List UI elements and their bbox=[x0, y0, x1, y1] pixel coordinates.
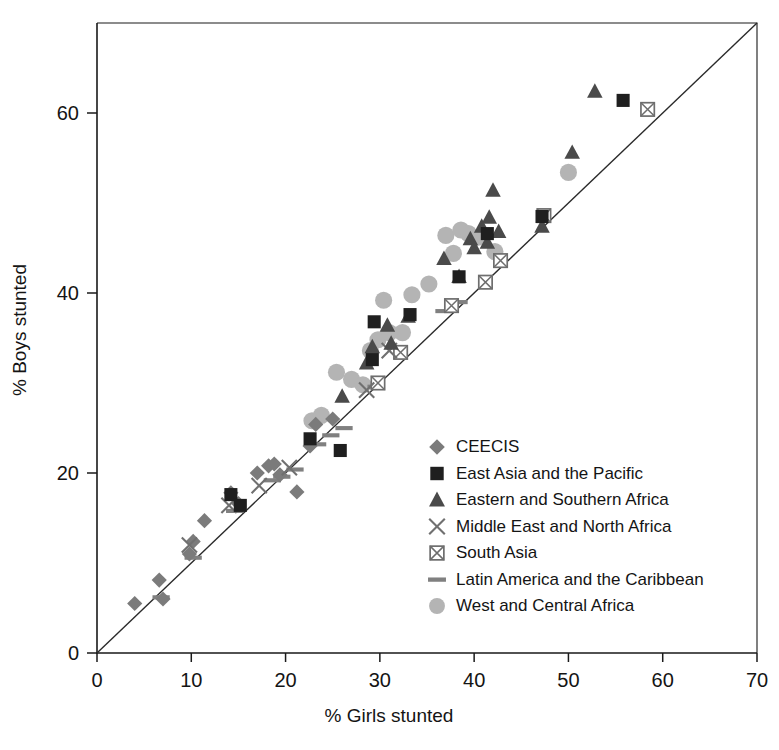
triangle-icon bbox=[429, 492, 445, 507]
data-point bbox=[368, 315, 381, 328]
legend-label: South Asia bbox=[456, 543, 538, 562]
data-point bbox=[252, 478, 267, 493]
legend-item-eastern-and-southern-africa[interactable]: Eastern and Southern Africa bbox=[429, 490, 669, 509]
legend-item-west-and-central-africa[interactable]: West and Central Africa bbox=[429, 596, 635, 615]
data-point bbox=[453, 270, 466, 283]
legend-label: West and Central Africa bbox=[456, 596, 635, 615]
data-point bbox=[375, 292, 392, 309]
data-point bbox=[437, 227, 454, 244]
data-point bbox=[335, 426, 352, 430]
data-point bbox=[197, 513, 212, 528]
data-point bbox=[334, 444, 347, 457]
data-point bbox=[420, 275, 437, 292]
data-point bbox=[445, 299, 458, 312]
plot-area: 0102030405060700204060 CEECISEast Asia a… bbox=[0, 0, 779, 750]
series-west-and-central-africa bbox=[303, 164, 577, 430]
legend-item-ceecis[interactable]: CEECIS bbox=[429, 437, 519, 456]
x-tick-label: 20 bbox=[274, 669, 296, 691]
data-point bbox=[334, 388, 350, 402]
legend-item-south-asia[interactable]: South Asia bbox=[430, 543, 538, 562]
data-point bbox=[481, 209, 497, 223]
data-point bbox=[485, 182, 501, 196]
y-axis-label: % Boys stunted bbox=[9, 264, 30, 396]
data-point bbox=[403, 286, 420, 303]
x-tick-label: 30 bbox=[369, 669, 391, 691]
cross-icon bbox=[429, 519, 445, 535]
data-point bbox=[366, 353, 379, 366]
series-middle-east-and-north-africa bbox=[182, 343, 397, 553]
data-point bbox=[494, 254, 507, 267]
data-point bbox=[479, 276, 492, 289]
data-point bbox=[152, 573, 167, 588]
x-axis-label: % Girls stunted bbox=[325, 705, 454, 726]
data-point bbox=[617, 94, 630, 107]
legend-item-east-asia-and-the-pacific[interactable]: East Asia and the Pacific bbox=[430, 464, 643, 483]
data-point bbox=[481, 227, 494, 240]
data-point bbox=[394, 324, 411, 341]
x-tick-label: 0 bbox=[91, 669, 102, 691]
x-tick-label: 50 bbox=[557, 669, 579, 691]
x-tick-label: 40 bbox=[463, 669, 485, 691]
legend-item-middle-east-and-north-africa[interactable]: Middle East and North Africa bbox=[429, 517, 672, 536]
data-point bbox=[127, 596, 142, 611]
square-icon bbox=[430, 467, 443, 480]
scatter-chart: 0102030405060700204060 CEECISEast Asia a… bbox=[0, 0, 779, 750]
data-point bbox=[587, 83, 603, 97]
data-point bbox=[403, 308, 416, 321]
data-point bbox=[234, 499, 247, 512]
data-point bbox=[564, 144, 580, 158]
legend-label: Eastern and Southern Africa bbox=[456, 490, 669, 509]
x-tick-label: 70 bbox=[746, 669, 768, 691]
series-south-asia bbox=[371, 103, 654, 390]
chart-legend: CEECISEast Asia and the PacificEastern a… bbox=[428, 437, 704, 615]
crossed-square-icon bbox=[430, 546, 444, 560]
circle-icon bbox=[429, 598, 445, 614]
data-point bbox=[560, 164, 577, 181]
data-point bbox=[641, 103, 654, 116]
legend-label: CEECIS bbox=[456, 437, 519, 456]
legend-label: Middle East and North Africa bbox=[456, 517, 672, 536]
y-tick-label: 60 bbox=[57, 102, 79, 124]
y-tick-label: 20 bbox=[57, 462, 79, 484]
data-point bbox=[304, 432, 317, 445]
data-point bbox=[535, 210, 548, 223]
y-tick-label: 40 bbox=[57, 282, 79, 304]
x-tick-label: 60 bbox=[652, 669, 674, 691]
data-point bbox=[380, 317, 396, 331]
data-point bbox=[328, 364, 345, 381]
x-tick-label: 10 bbox=[180, 669, 202, 691]
data-point bbox=[155, 591, 170, 606]
legend-item-latin-america-and-the-caribbean[interactable]: Latin America and the Caribbean bbox=[428, 570, 704, 589]
data-point bbox=[322, 433, 339, 437]
legend-label: East Asia and the Pacific bbox=[456, 464, 644, 483]
dash-icon bbox=[428, 577, 446, 581]
diamond-icon bbox=[429, 439, 445, 455]
legend-label: Latin America and the Caribbean bbox=[456, 570, 704, 589]
data-point bbox=[289, 484, 304, 499]
y-tick-label: 0 bbox=[68, 642, 79, 664]
